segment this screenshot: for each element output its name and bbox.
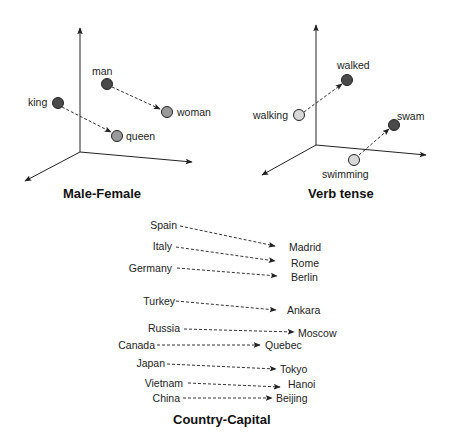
country-label: Russia bbox=[148, 322, 180, 334]
x-axis bbox=[80, 152, 192, 162]
arrow-russia-moscow bbox=[184, 329, 294, 332]
country-label: Spain bbox=[150, 219, 177, 231]
country-label: Turkey bbox=[143, 295, 175, 307]
capital-label: Hanoi bbox=[288, 378, 315, 390]
label-queen: queen bbox=[126, 130, 155, 142]
panel-title-country-capital: Country-Capital bbox=[173, 412, 271, 427]
country-label: China bbox=[153, 392, 181, 404]
point-swimming bbox=[349, 155, 360, 166]
country-label: Italy bbox=[153, 240, 173, 252]
capital-label: Madrid bbox=[289, 241, 321, 253]
arrow-vietnam-hanoi bbox=[188, 383, 280, 387]
capital-label: Moscow bbox=[298, 327, 337, 339]
arrow-italy-rome bbox=[176, 247, 275, 261]
point-queen bbox=[112, 131, 123, 142]
label-woman: woman bbox=[176, 106, 211, 118]
point-walking bbox=[294, 110, 305, 121]
capital-label: Rome bbox=[291, 257, 319, 269]
arrow-germany-berlin bbox=[177, 268, 277, 276]
panel-title-verb-tense: Verb tense bbox=[308, 186, 374, 201]
capital-label: Beijing bbox=[276, 392, 308, 404]
label-walked: walked bbox=[336, 59, 370, 71]
verb-tense-panel: walking walked swimming swam Verb tense bbox=[252, 25, 426, 201]
word-embedding-diagram: man woman king queen Male-Female walking… bbox=[0, 0, 452, 441]
capital-label: Tokyo bbox=[280, 363, 308, 375]
country-label: Canada bbox=[118, 339, 155, 351]
label-man: man bbox=[92, 65, 113, 77]
z-axis bbox=[25, 152, 80, 181]
country-capital-panel: Spain Italy Germany Turkey Russia Canada… bbox=[118, 219, 337, 427]
capital-label: Quebec bbox=[265, 339, 302, 351]
x-axis bbox=[316, 145, 426, 155]
arrow-king-queen bbox=[62, 107, 111, 132]
capital-label: Berlin bbox=[291, 271, 318, 283]
panel-title-male-female: Male-Female bbox=[63, 186, 141, 201]
point-woman bbox=[162, 107, 173, 118]
point-king bbox=[53, 98, 64, 109]
capital-label: Ankara bbox=[287, 304, 320, 316]
country-label: Japan bbox=[136, 357, 165, 369]
arrow-japan-tokyo bbox=[167, 364, 276, 369]
male-female-panel: man woman king queen Male-Female bbox=[25, 28, 211, 201]
arrow-turkey-ankara bbox=[176, 301, 276, 310]
z-axis bbox=[262, 145, 316, 175]
label-swimming: swimming bbox=[322, 168, 369, 180]
arrow-man-woman bbox=[112, 87, 160, 109]
label-king: king bbox=[28, 96, 47, 108]
point-walked bbox=[342, 75, 353, 86]
label-walking: walking bbox=[252, 109, 288, 121]
label-swam: swam bbox=[397, 110, 425, 122]
country-label: Germany bbox=[129, 262, 173, 274]
arrow-walking-walked bbox=[304, 84, 342, 112]
country-label: Vietnam bbox=[145, 377, 184, 389]
point-man bbox=[102, 79, 113, 90]
arrow-spain-madrid bbox=[180, 226, 275, 246]
